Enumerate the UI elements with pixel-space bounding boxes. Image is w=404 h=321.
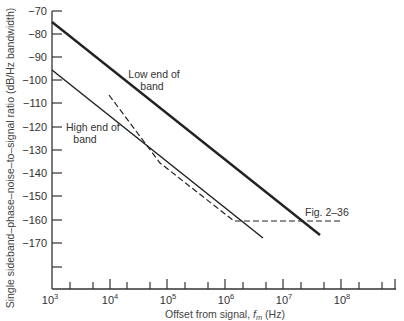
x-tick-label: 105 xyxy=(160,292,176,306)
x-tick-label: 103 xyxy=(42,292,58,306)
fig-ref-label: Fig. 2–36 xyxy=(305,206,349,218)
y-tick-label: −70 xyxy=(28,5,47,17)
high-end-of-band-line xyxy=(52,70,263,238)
low-end-label-band: band xyxy=(140,80,164,92)
x-ticks xyxy=(70,279,395,289)
y-axis-title: Single sideband–phase–noise–to–signal ra… xyxy=(4,8,16,309)
y-tick-label: −140 xyxy=(22,167,47,179)
annotations: Low end of band High end of band Fig. 2–… xyxy=(66,68,349,218)
x-tick-labels: 103 104 105 106 107 108 xyxy=(42,292,350,306)
axes xyxy=(52,11,396,289)
phase-noise-chart: −70 −80 −90 −100 −110 −120 −130 −140 −15… xyxy=(0,0,404,321)
y-tick-label: −100 xyxy=(22,74,47,86)
x-tick-label: 106 xyxy=(218,292,234,306)
low-end-label: Low end of xyxy=(128,68,179,80)
x-tick-label: 108 xyxy=(334,292,350,306)
y-tick-label: −90 xyxy=(28,51,47,63)
y-tick-label: −160 xyxy=(22,214,47,226)
y-ticks xyxy=(52,11,62,267)
y-tick-label: −110 xyxy=(23,97,47,109)
y-tick-label: −80 xyxy=(28,28,47,40)
y-tick-label: −130 xyxy=(22,144,47,156)
high-end-label-band: band xyxy=(73,133,97,145)
y-tick-label: −120 xyxy=(22,121,47,133)
y-tick-label: −170 xyxy=(22,237,47,249)
x-tick-label: 104 xyxy=(102,292,118,306)
y-tick-label: −150 xyxy=(22,190,47,202)
x-tick-label: 107 xyxy=(276,292,292,306)
x-axis-title: Offset from signal, fm (Hz) xyxy=(165,308,285,321)
high-end-label: High end of xyxy=(66,121,120,133)
y-tick-labels: −70 −80 −90 −100 −110 −120 −130 −140 −15… xyxy=(22,5,47,249)
fig-2-36-dashed-line xyxy=(109,95,342,221)
